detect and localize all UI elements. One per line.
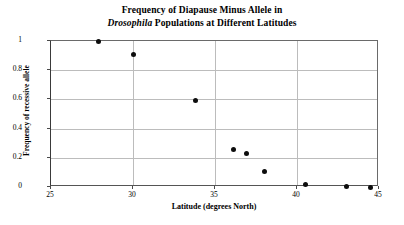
y-axis-tick-label: 0.4: [0, 124, 22, 132]
data-point: [244, 151, 249, 156]
y-axis-tick-label: 1: [0, 36, 22, 44]
y-axis-tick-mark: [47, 40, 50, 41]
y-axis-tick-mark: [47, 157, 50, 158]
gridline-horizontal: [51, 158, 377, 159]
gridline-vertical: [297, 41, 298, 185]
y-axis-tick-label: 0.2: [0, 153, 22, 161]
x-axis-title: Latitude (degrees North): [50, 202, 378, 211]
data-point: [344, 184, 349, 189]
x-axis-tick-label: 25: [30, 190, 70, 199]
y-axis-tick-mark: [47, 69, 50, 70]
x-axis-tick-label: 40: [276, 190, 316, 199]
gridline-horizontal: [51, 129, 377, 130]
y-axis-title: Frequency of recessive allele: [22, 38, 31, 184]
x-axis-tick-label: 45: [358, 190, 398, 199]
y-axis-tick-label: 0.8: [0, 65, 22, 73]
data-point: [231, 147, 236, 152]
species-name-italic: Drosophila: [107, 18, 152, 28]
data-point: [262, 169, 267, 174]
gridline-horizontal: [51, 70, 377, 71]
plot-area: [50, 40, 378, 186]
y-axis-tick-label: 0: [0, 182, 22, 190]
gridline-horizontal: [51, 99, 377, 100]
y-axis-tick-mark: [47, 128, 50, 129]
data-point: [193, 98, 198, 103]
data-point: [368, 185, 373, 190]
chart-title-line-1: Frequency of Diapause Minus Allele in: [0, 4, 404, 17]
x-axis-tick-mark: [214, 186, 215, 189]
gridline-vertical: [215, 41, 216, 185]
scatter-chart: Frequency of Diapause Minus Allele in Dr…: [0, 0, 404, 225]
y-axis-tick-mark: [47, 98, 50, 99]
chart-title-line-2: Drosophila Populations at Different Lati…: [0, 17, 404, 30]
x-axis-tick-mark: [132, 186, 133, 189]
x-axis-tick-mark: [378, 186, 379, 189]
gridline-vertical: [133, 41, 134, 185]
x-axis-tick-label: 35: [194, 190, 234, 199]
data-point: [96, 39, 101, 44]
x-axis-tick-mark: [50, 186, 51, 189]
data-point: [131, 52, 136, 57]
y-axis-tick-label: 0.6: [0, 94, 22, 102]
chart-title-line-2-rest: Populations at Different Latitudes: [152, 18, 296, 28]
data-point: [303, 182, 308, 187]
x-axis-tick-mark: [296, 186, 297, 189]
chart-title: Frequency of Diapause Minus Allele in Dr…: [0, 4, 404, 29]
x-axis-tick-label: 30: [112, 190, 152, 199]
